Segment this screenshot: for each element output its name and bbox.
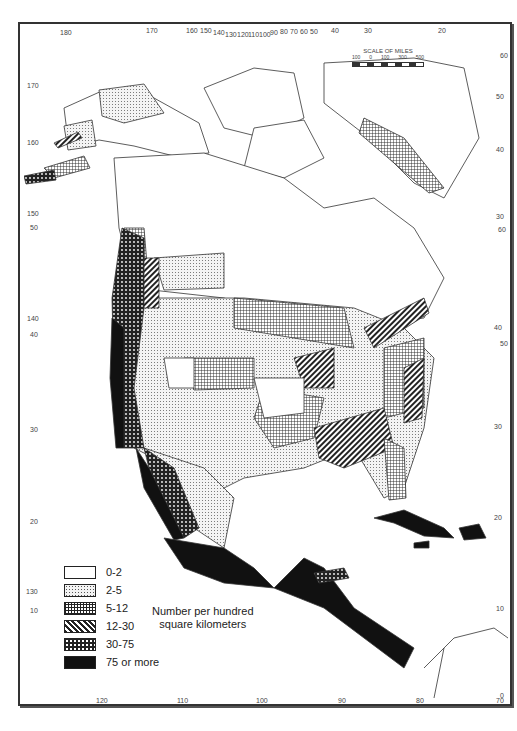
legend-item: 0-2 — [64, 563, 159, 581]
legend-item: 30-75 — [64, 635, 159, 653]
lat-tick: 20 — [30, 518, 38, 525]
legend-label: 5-12 — [106, 602, 128, 614]
lat-tick: 140 — [27, 315, 39, 322]
lat-tick: 40 — [496, 146, 504, 153]
lat-tick: 60 — [498, 226, 506, 233]
lon-tick: 120 — [96, 697, 108, 704]
legend-item: 75 or more — [64, 653, 159, 671]
legend-label: 2-5 — [106, 584, 122, 596]
legend-label: 0-2 — [106, 566, 122, 578]
scale-bar-graphic — [352, 62, 424, 67]
lon-tick: 90 — [270, 29, 278, 36]
swatch-grid-icon — [64, 602, 96, 615]
swatch-dots-icon — [64, 584, 96, 597]
legend-caption: Number per hundred square kilometers — [152, 605, 254, 631]
lon-tick: 80 — [280, 28, 288, 35]
scale-ticks: 100 0 100 300 500 — [352, 54, 424, 60]
legend-item: 5-12 — [64, 599, 159, 617]
lat-tick: 0 — [500, 692, 504, 699]
lon-tick: 100 — [259, 31, 271, 38]
lat-tick: 30 — [496, 213, 504, 220]
lat-tick: 130 — [26, 588, 38, 595]
lat-tick: 50 — [500, 340, 508, 347]
lon-tick: 120 — [237, 31, 249, 38]
lat-tick: 10 — [496, 605, 504, 612]
lon-tick: 40 — [331, 27, 339, 34]
lon-tick: 80 — [416, 697, 424, 704]
lon-tick: 60 — [300, 28, 308, 35]
lon-tick: 20 — [438, 27, 446, 34]
lon-tick: 50 — [310, 28, 318, 35]
lon-tick: 150 — [200, 27, 212, 34]
lon-tick: 140 — [213, 29, 225, 36]
lat-tick: 40 — [494, 324, 502, 331]
scale-bar: SCALE OF MILES 100 0 100 300 500 — [352, 48, 424, 67]
lat-tick: 50 — [30, 224, 38, 231]
swatch-solid-icon — [64, 656, 96, 669]
legend-item: 12-30 — [64, 617, 159, 635]
lat-tick: 60 — [500, 52, 508, 59]
legend: 0-2 2-5 5-12 12-30 30-75 75 or more — [64, 563, 159, 671]
lat-tick: 160 — [27, 139, 39, 146]
legend-label: 12-30 — [106, 620, 134, 632]
swatch-blank-icon — [64, 566, 96, 579]
lat-tick: 10 — [30, 607, 38, 614]
lat-tick: 20 — [494, 514, 502, 521]
lon-tick: 170 — [146, 27, 158, 34]
lon-tick: 160 — [186, 27, 198, 34]
lat-tick: 30 — [494, 423, 502, 430]
lon-tick: 30 — [364, 27, 372, 34]
lat-tick: 50 — [496, 93, 504, 100]
lat-tick: 30 — [30, 426, 38, 433]
lon-tick: 130 — [225, 31, 237, 38]
lon-tick: 70 — [290, 28, 298, 35]
lon-tick: 110 — [177, 697, 188, 704]
swatch-stripes-icon — [64, 620, 96, 633]
lon-tick: 180 — [60, 29, 72, 36]
lat-tick: 170 — [27, 82, 39, 89]
lon-tick: 110 — [248, 31, 259, 38]
lon-tick: 100 — [256, 697, 268, 704]
lat-tick: 150 — [27, 210, 39, 217]
legend-label: 75 or more — [106, 656, 159, 668]
legend-label: 30-75 — [106, 638, 134, 650]
lon-tick: 90 — [338, 697, 346, 704]
swatch-black-dots-icon — [64, 638, 96, 651]
lat-tick: 40 — [30, 331, 38, 338]
legend-item: 2-5 — [64, 581, 159, 599]
